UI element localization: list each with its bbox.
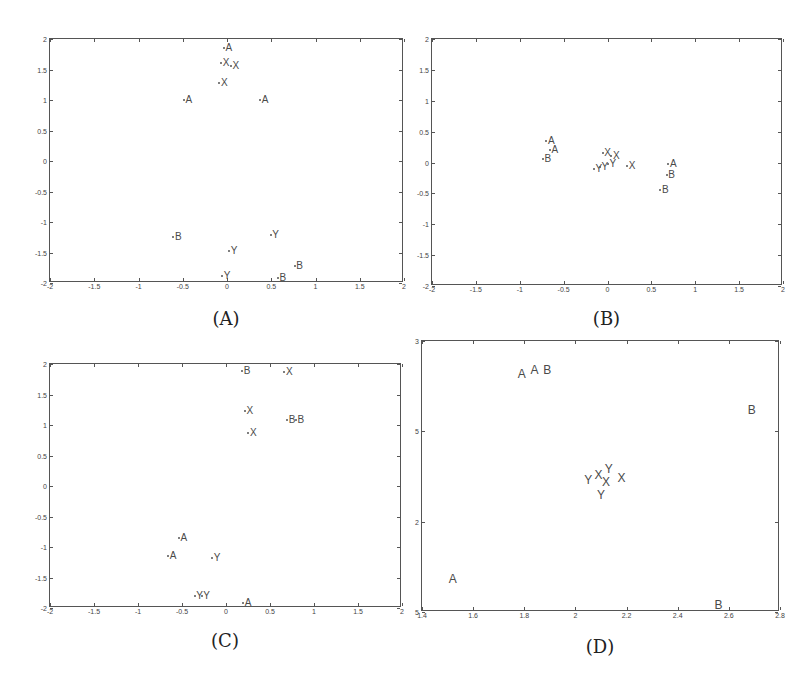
x-tick-mark (432, 281, 433, 284)
y-tick-label: -2 (423, 283, 429, 290)
y-tick-label: 3 (415, 338, 419, 345)
x-tick-mark (729, 341, 730, 344)
x-tick-mark (404, 278, 405, 281)
point-dot (228, 250, 230, 252)
x-tick-mark (138, 364, 139, 367)
data-point-x: X (617, 472, 625, 484)
y-tick-mark (50, 161, 53, 162)
x-tick-mark (358, 603, 359, 606)
y-tick-mark (399, 100, 402, 101)
y-tick-mark (432, 70, 435, 71)
x-tick-mark (473, 341, 474, 344)
y-tick-mark (432, 39, 435, 40)
point-dot (247, 432, 249, 434)
plot-area-d: 1.41.61.822.22.42.62.83525AABBXYYXXYAB (421, 340, 779, 611)
point-dot (259, 99, 261, 101)
data-point-y: Y (214, 553, 221, 563)
data-point-b: B (297, 415, 304, 425)
y-tick-mark (397, 578, 400, 579)
y-tick-mark (397, 486, 400, 487)
y-tick-mark (50, 364, 53, 365)
x-tick-label: 2.8 (775, 612, 785, 619)
y-tick-mark (432, 132, 435, 133)
y-tick-mark (50, 70, 53, 71)
point-dot (270, 234, 272, 236)
x-tick-mark (360, 278, 361, 281)
y-tick-label: 0.5 (419, 128, 429, 135)
y-tick-label: 5 (415, 428, 419, 435)
point-dot (167, 555, 169, 557)
data-point-a: A (225, 43, 232, 53)
data-point-a: A (186, 95, 193, 105)
x-tick-mark (94, 278, 95, 281)
x-tick-label: 0 (225, 283, 229, 290)
point-dot (602, 152, 604, 154)
y-tick-mark (422, 431, 425, 432)
y-tick-label: -1.5 (417, 252, 429, 259)
x-tick-mark (564, 281, 565, 284)
y-tick-mark (399, 222, 402, 223)
point-dot (218, 82, 220, 84)
data-point-b: B (279, 273, 286, 283)
x-tick-mark (651, 39, 652, 42)
x-tick-mark (404, 39, 405, 42)
y-tick-mark (50, 578, 53, 579)
y-tick-mark (397, 517, 400, 518)
y-tick-label: 0 (43, 483, 47, 490)
x-tick-label: 2.2 (622, 612, 632, 619)
data-point-y: Y (584, 474, 592, 486)
point-dot (230, 65, 232, 67)
point-dot (221, 275, 223, 277)
panel-caption-a: (A) (212, 308, 239, 329)
x-tick-mark (316, 278, 317, 281)
y-tick-label: -2 (41, 280, 47, 287)
point-dot (545, 140, 547, 142)
y-tick-label: 5 (415, 609, 419, 616)
y-tick-mark (399, 39, 402, 40)
y-tick-mark (432, 101, 435, 102)
x-tick-mark (520, 39, 521, 42)
point-dot (172, 236, 174, 238)
y-tick-mark (422, 612, 425, 613)
x-tick-mark (182, 364, 183, 367)
x-tick-label: 2 (400, 608, 404, 615)
y-tick-label: 0.5 (37, 127, 47, 134)
y-tick-label: 2 (425, 36, 429, 43)
x-tick-mark (402, 603, 403, 606)
y-tick-mark (432, 255, 435, 256)
y-tick-mark (50, 283, 53, 284)
y-tick-mark (778, 39, 781, 40)
y-tick-mark (50, 425, 53, 426)
data-point-a: A (530, 364, 538, 376)
x-tick-label: 0 (606, 286, 610, 293)
data-point-a: A (518, 368, 526, 380)
y-tick-mark (778, 193, 781, 194)
data-point-a: A (552, 145, 559, 155)
x-tick-mark (695, 39, 696, 42)
data-point-b: B (296, 261, 303, 271)
y-tick-mark (399, 161, 402, 162)
data-point-y: Y (609, 159, 616, 169)
x-tick-mark (473, 607, 474, 610)
y-tick-label: 2 (43, 361, 47, 368)
x-tick-mark (182, 603, 183, 606)
data-point-y: Y (597, 489, 605, 501)
data-point-y: Y (203, 591, 210, 601)
y-tick-mark (778, 224, 781, 225)
y-tick-mark (397, 547, 400, 548)
data-point-y: Y (231, 246, 238, 256)
x-tick-mark (226, 364, 227, 367)
y-tick-mark (50, 39, 53, 40)
point-dot (607, 163, 609, 165)
x-tick-mark (360, 39, 361, 42)
x-tick-label: -1 (135, 283, 141, 290)
x-tick-mark (226, 603, 227, 606)
data-point-x: X (250, 428, 257, 438)
point-dot (626, 165, 628, 167)
y-tick-label: 1.5 (37, 66, 47, 73)
x-tick-label: 0 (224, 608, 228, 615)
data-point-x: X (602, 476, 610, 488)
y-tick-mark (432, 286, 435, 287)
x-tick-label: -0.5 (558, 286, 570, 293)
x-tick-mark (50, 278, 51, 281)
